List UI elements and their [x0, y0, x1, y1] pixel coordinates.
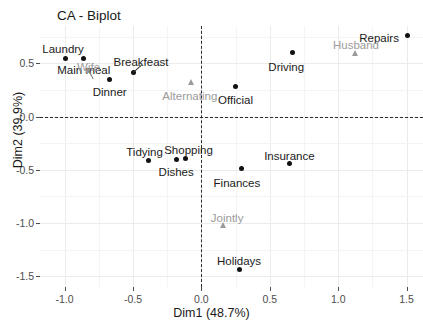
x-tick-label: 0.0: [194, 293, 209, 305]
y-tick-mark: [36, 170, 40, 171]
data-point: [188, 79, 194, 85]
gridline-horizontal-minor: [40, 250, 423, 251]
point-label: Insurance: [264, 151, 315, 163]
point-label: Laundry: [42, 44, 84, 56]
y-tick-label: -1.0: [2, 217, 34, 229]
x-tick-label: -1.0: [56, 293, 74, 305]
data-point: [290, 50, 295, 55]
x-tick-label: -0.5: [124, 293, 142, 305]
x-tick-label: 1.0: [331, 293, 346, 305]
y-axis-label: Dim2 (39.9%): [11, 50, 25, 210]
point-label: Husband: [333, 40, 379, 52]
gridline-vertical-minor: [372, 26, 373, 287]
x-axis-label: Dim1 (48.7%): [0, 306, 423, 320]
gridline-vertical: [407, 26, 408, 287]
point-label: Alternating: [162, 91, 217, 103]
x-tick-mark: [65, 287, 66, 291]
x-tick-label: 1.5: [399, 293, 414, 305]
gridline-vertical-minor: [236, 26, 237, 287]
point-label: Dishes: [159, 167, 194, 179]
y-tick-mark: [36, 63, 40, 64]
plot-panel: LaundryMain mealDinnerBreakfeastTidyingD…: [40, 26, 423, 287]
point-label: Dinner: [93, 87, 127, 99]
data-point: [63, 56, 68, 61]
y-tick-mark: [36, 223, 40, 224]
x-tick-label: 0.5: [262, 293, 277, 305]
ca-biplot-figure: CA - Biplot LaundryMain mealDinnerBreakf…: [0, 0, 423, 328]
x-tick-mark: [270, 287, 271, 291]
point-label: Shopping: [164, 145, 213, 157]
gridline-vertical: [338, 26, 339, 287]
data-point: [107, 77, 112, 82]
point-label: Breakfeast: [114, 57, 169, 69]
y-tick-label: -1.5: [2, 270, 34, 282]
point-label: Holidays: [217, 256, 261, 268]
point-label: Driving: [268, 62, 304, 74]
point-label: Jointly: [211, 213, 244, 225]
y-tick-mark: [36, 117, 40, 118]
data-point: [239, 166, 244, 171]
gridline-horizontal-minor: [40, 143, 423, 144]
reference-line-vertical: [201, 26, 202, 287]
data-point: [174, 157, 179, 162]
gridline-horizontal: [40, 170, 423, 171]
data-point: [183, 156, 188, 161]
point-label: Finances: [214, 178, 261, 190]
point-label: Official: [218, 95, 253, 107]
reference-line-horizontal: [40, 117, 423, 118]
x-tick-mark: [338, 287, 339, 291]
data-point: [233, 84, 238, 89]
y-tick-mark: [36, 276, 40, 277]
point-label: Tidying: [126, 147, 163, 159]
data-point: [405, 33, 410, 38]
gridline-horizontal: [40, 276, 423, 277]
page-title: CA - Biplot: [57, 8, 121, 23]
x-tick-mark: [201, 287, 202, 291]
gridline-horizontal-minor: [40, 196, 423, 197]
x-tick-mark: [133, 287, 134, 291]
x-tick-mark: [407, 287, 408, 291]
